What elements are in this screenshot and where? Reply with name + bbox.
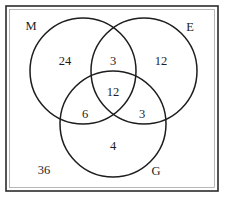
region-value-m-e-g: 12 [107, 85, 120, 99]
region-value-m-e: 3 [110, 54, 116, 68]
region-value-e-g: 3 [139, 107, 145, 121]
region-value-m-only: 24 [59, 54, 72, 68]
venn-diagram-canvas: M E G 24 3 12 12 6 3 4 36 [0, 0, 225, 198]
region-value-g-only: 4 [110, 139, 117, 153]
region-value-outside: 36 [38, 163, 51, 177]
region-value-m-g: 6 [82, 107, 88, 121]
venn-diagram-figure: M E G 24 3 12 12 6 3 4 36 [0, 0, 225, 198]
set-label-e: E [186, 20, 194, 34]
set-label-m: M [25, 19, 36, 33]
set-label-g: G [151, 164, 160, 178]
region-value-e-only: 12 [155, 54, 168, 68]
